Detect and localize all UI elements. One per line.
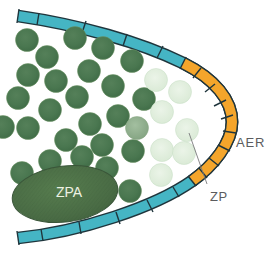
mesenchyme-cell-light — [169, 81, 192, 104]
mesenchyme-cell-dark — [64, 27, 87, 50]
mesenchyme-cell-dark — [36, 46, 59, 69]
mesenchyme-cell-light — [151, 101, 174, 124]
mesenchyme-cell-dark — [121, 50, 144, 73]
zp-label: ZP — [210, 189, 228, 204]
mesenchyme-cell-dark — [119, 180, 142, 203]
mesenchyme-cell-dark — [45, 70, 68, 93]
mesenchyme-cell-dark — [91, 134, 114, 157]
mesenchyme-cell-dark — [17, 117, 40, 140]
mesenchyme-cell-dark — [16, 29, 39, 52]
mesenchyme-cell-dark — [55, 129, 78, 152]
mesenchyme-cell-dark — [0, 116, 15, 139]
mesenchyme-cell-medium — [126, 117, 149, 140]
mesenchyme-cell-light — [150, 164, 173, 187]
limb-bud-diagram: ZPA AER ZP — [0, 0, 278, 256]
mesenchyme-cell-light — [145, 69, 168, 92]
mesenchyme-cell-dark — [7, 87, 30, 110]
mesenchyme-cell-dark — [79, 113, 102, 136]
limb-bud-figure: ZPA AER ZP — [0, 0, 278, 256]
mesenchyme-cell-light — [176, 119, 199, 142]
mesenchyme-cell-dark — [102, 75, 125, 98]
mesenchyme-cell-dark — [92, 37, 115, 60]
mesenchyme-cell-dark — [17, 64, 40, 87]
mesenchyme-cell-dark — [39, 99, 62, 122]
mesenchyme-cell-light — [173, 142, 196, 165]
aer-label: AER — [236, 135, 265, 150]
mesenchyme-cell-dark — [66, 86, 89, 109]
zpa-label: ZPA — [56, 184, 83, 200]
mesenchyme-cell-light — [151, 139, 174, 162]
mesenchyme-cell-dark — [78, 60, 101, 83]
mesenchyme-cell-dark — [122, 140, 145, 163]
